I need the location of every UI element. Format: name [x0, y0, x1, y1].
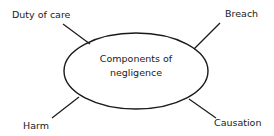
- connector-breach: [194, 23, 220, 49]
- connector-duty-of-care: [63, 24, 90, 44]
- connector-causation: [189, 99, 216, 118]
- node-causation: Causation: [214, 118, 261, 128]
- node-duty-of-care: Duty of care: [12, 10, 70, 20]
- center-label: Components of negligence: [86, 52, 186, 80]
- center-label-line1: Components of: [86, 52, 186, 66]
- connector-harm: [52, 97, 79, 118]
- center-label-line2: negligence: [86, 66, 186, 80]
- node-breach: Breach: [225, 9, 258, 19]
- node-harm: Harm: [23, 121, 49, 131]
- negligence-diagram: Components of negligence Duty of care Br…: [0, 0, 274, 136]
